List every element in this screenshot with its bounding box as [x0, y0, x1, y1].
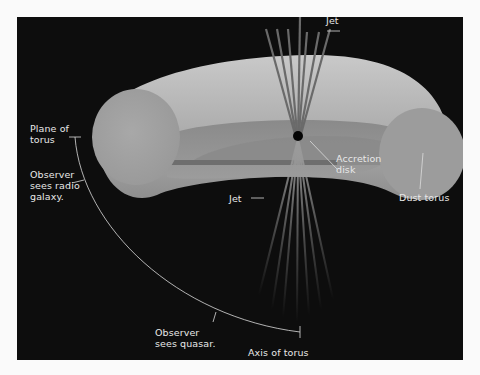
- diagram-frame: Jet Accretion disk Dust torus Plane of t…: [17, 17, 463, 360]
- torus-cross-section-right: [379, 108, 463, 200]
- label-jet-bottom: Jet: [229, 193, 242, 204]
- tick-quasar: [213, 312, 216, 322]
- label-axis-of-torus: Axis of torus: [248, 347, 309, 358]
- dust-torus: [92, 55, 463, 200]
- central-black-hole: [293, 131, 303, 141]
- label-observer-radio-galaxy: Observer sees radio galaxy.: [30, 169, 80, 202]
- torus-cross-section-left: [92, 89, 180, 185]
- label-accretion-disk: Accretion disk: [336, 153, 381, 175]
- agn-unified-model-illustration: [17, 17, 463, 360]
- label-plane-of-torus: Plane of torus: [30, 123, 69, 145]
- label-jet-top: Jet: [326, 17, 339, 26]
- label-dust-torus: Dust torus: [399, 192, 449, 203]
- label-observer-quasar: Observer sees quasar.: [155, 327, 216, 349]
